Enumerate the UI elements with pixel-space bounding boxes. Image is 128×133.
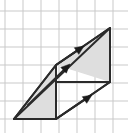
geometry-figure (0, 0, 128, 133)
figure-canvas (0, 0, 128, 133)
